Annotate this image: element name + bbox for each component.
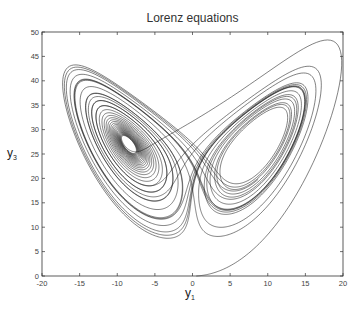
y-axis-label: y3 bbox=[7, 146, 17, 161]
x-tick-label: -15 bbox=[74, 279, 85, 288]
lorenz-trajectory bbox=[63, 40, 342, 276]
y-tick-label: 20 bbox=[31, 174, 39, 183]
y-tick-label: 50 bbox=[31, 28, 39, 37]
x-axis-label: y1 bbox=[185, 286, 195, 301]
y-tick-label: 0 bbox=[35, 272, 39, 281]
y-tick-label: 15 bbox=[31, 198, 39, 207]
x-tick-label: 15 bbox=[301, 279, 309, 288]
x-tick-label: 5 bbox=[228, 279, 232, 288]
plot-area: -20-15-10-505101520 05101520253035404550… bbox=[0, 0, 363, 317]
y-tick-label: 5 bbox=[35, 247, 39, 256]
y-tick-label: 40 bbox=[31, 76, 39, 85]
x-tick-label: -5 bbox=[152, 279, 159, 288]
y-tick-label: 30 bbox=[31, 125, 39, 134]
y-tick-label: 10 bbox=[31, 223, 39, 232]
x-tick-label: 0 bbox=[190, 279, 194, 288]
x-tick-label: 20 bbox=[339, 279, 347, 288]
x-tick-label: 10 bbox=[264, 279, 272, 288]
y-tick-label: 35 bbox=[31, 101, 39, 110]
y-tick-label: 25 bbox=[31, 150, 39, 159]
trajectory-line bbox=[63, 40, 342, 276]
x-axis-ticks: -20-15-10-505101520 bbox=[37, 32, 348, 288]
y-tick-label: 45 bbox=[31, 52, 39, 61]
x-tick-label: -10 bbox=[112, 279, 123, 288]
